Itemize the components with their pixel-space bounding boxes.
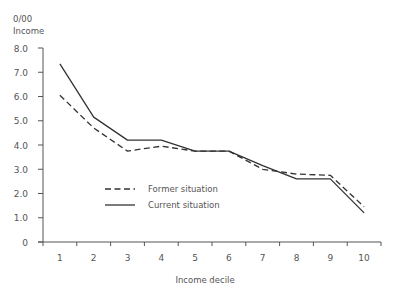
y-tick-label: 1.0 (14, 213, 29, 223)
y-tick-label: 5.0 (14, 116, 29, 126)
legend: Former situationCurrent situation (105, 184, 220, 210)
y-axis-title: Income (13, 26, 44, 36)
legend-label: Current situation (148, 200, 220, 210)
x-axis-title: Income decile (175, 275, 234, 285)
y-tick-label: 6.0 (14, 92, 29, 102)
x-tick-label: 6 (226, 253, 232, 263)
x-tick-label: 10 (358, 253, 370, 263)
y-tick-label: 4.0 (14, 141, 29, 151)
y-axis-unit-label: 0/00 (13, 14, 32, 24)
y-tick-label: 3.0 (14, 165, 29, 175)
y-tick-label: 7.0 (14, 68, 29, 78)
x-tick-label: 8 (294, 253, 300, 263)
line-chart: 0/00 Income 01.02.03.04.05.06.07.08.0 12… (0, 0, 397, 301)
y-tick-label: 8.0 (14, 44, 29, 54)
x-tick-label: 3 (125, 253, 131, 263)
x-axis: 12345678910 (38, 242, 381, 263)
x-tick-label: 9 (327, 253, 333, 263)
x-tick-label: 7 (260, 253, 266, 263)
y-tick-label: 2.0 (14, 189, 29, 199)
x-tick-label: 5 (192, 253, 198, 263)
y-axis-label: 0/00 Income (13, 14, 44, 36)
y-tick-label: 0 (22, 238, 28, 248)
y-axis: 01.02.03.04.05.06.07.08.0 (14, 44, 43, 248)
legend-label: Former situation (148, 184, 218, 194)
x-tick-label: 2 (91, 253, 97, 263)
x-tick-label: 4 (158, 253, 164, 263)
x-tick-label: 1 (57, 253, 63, 263)
